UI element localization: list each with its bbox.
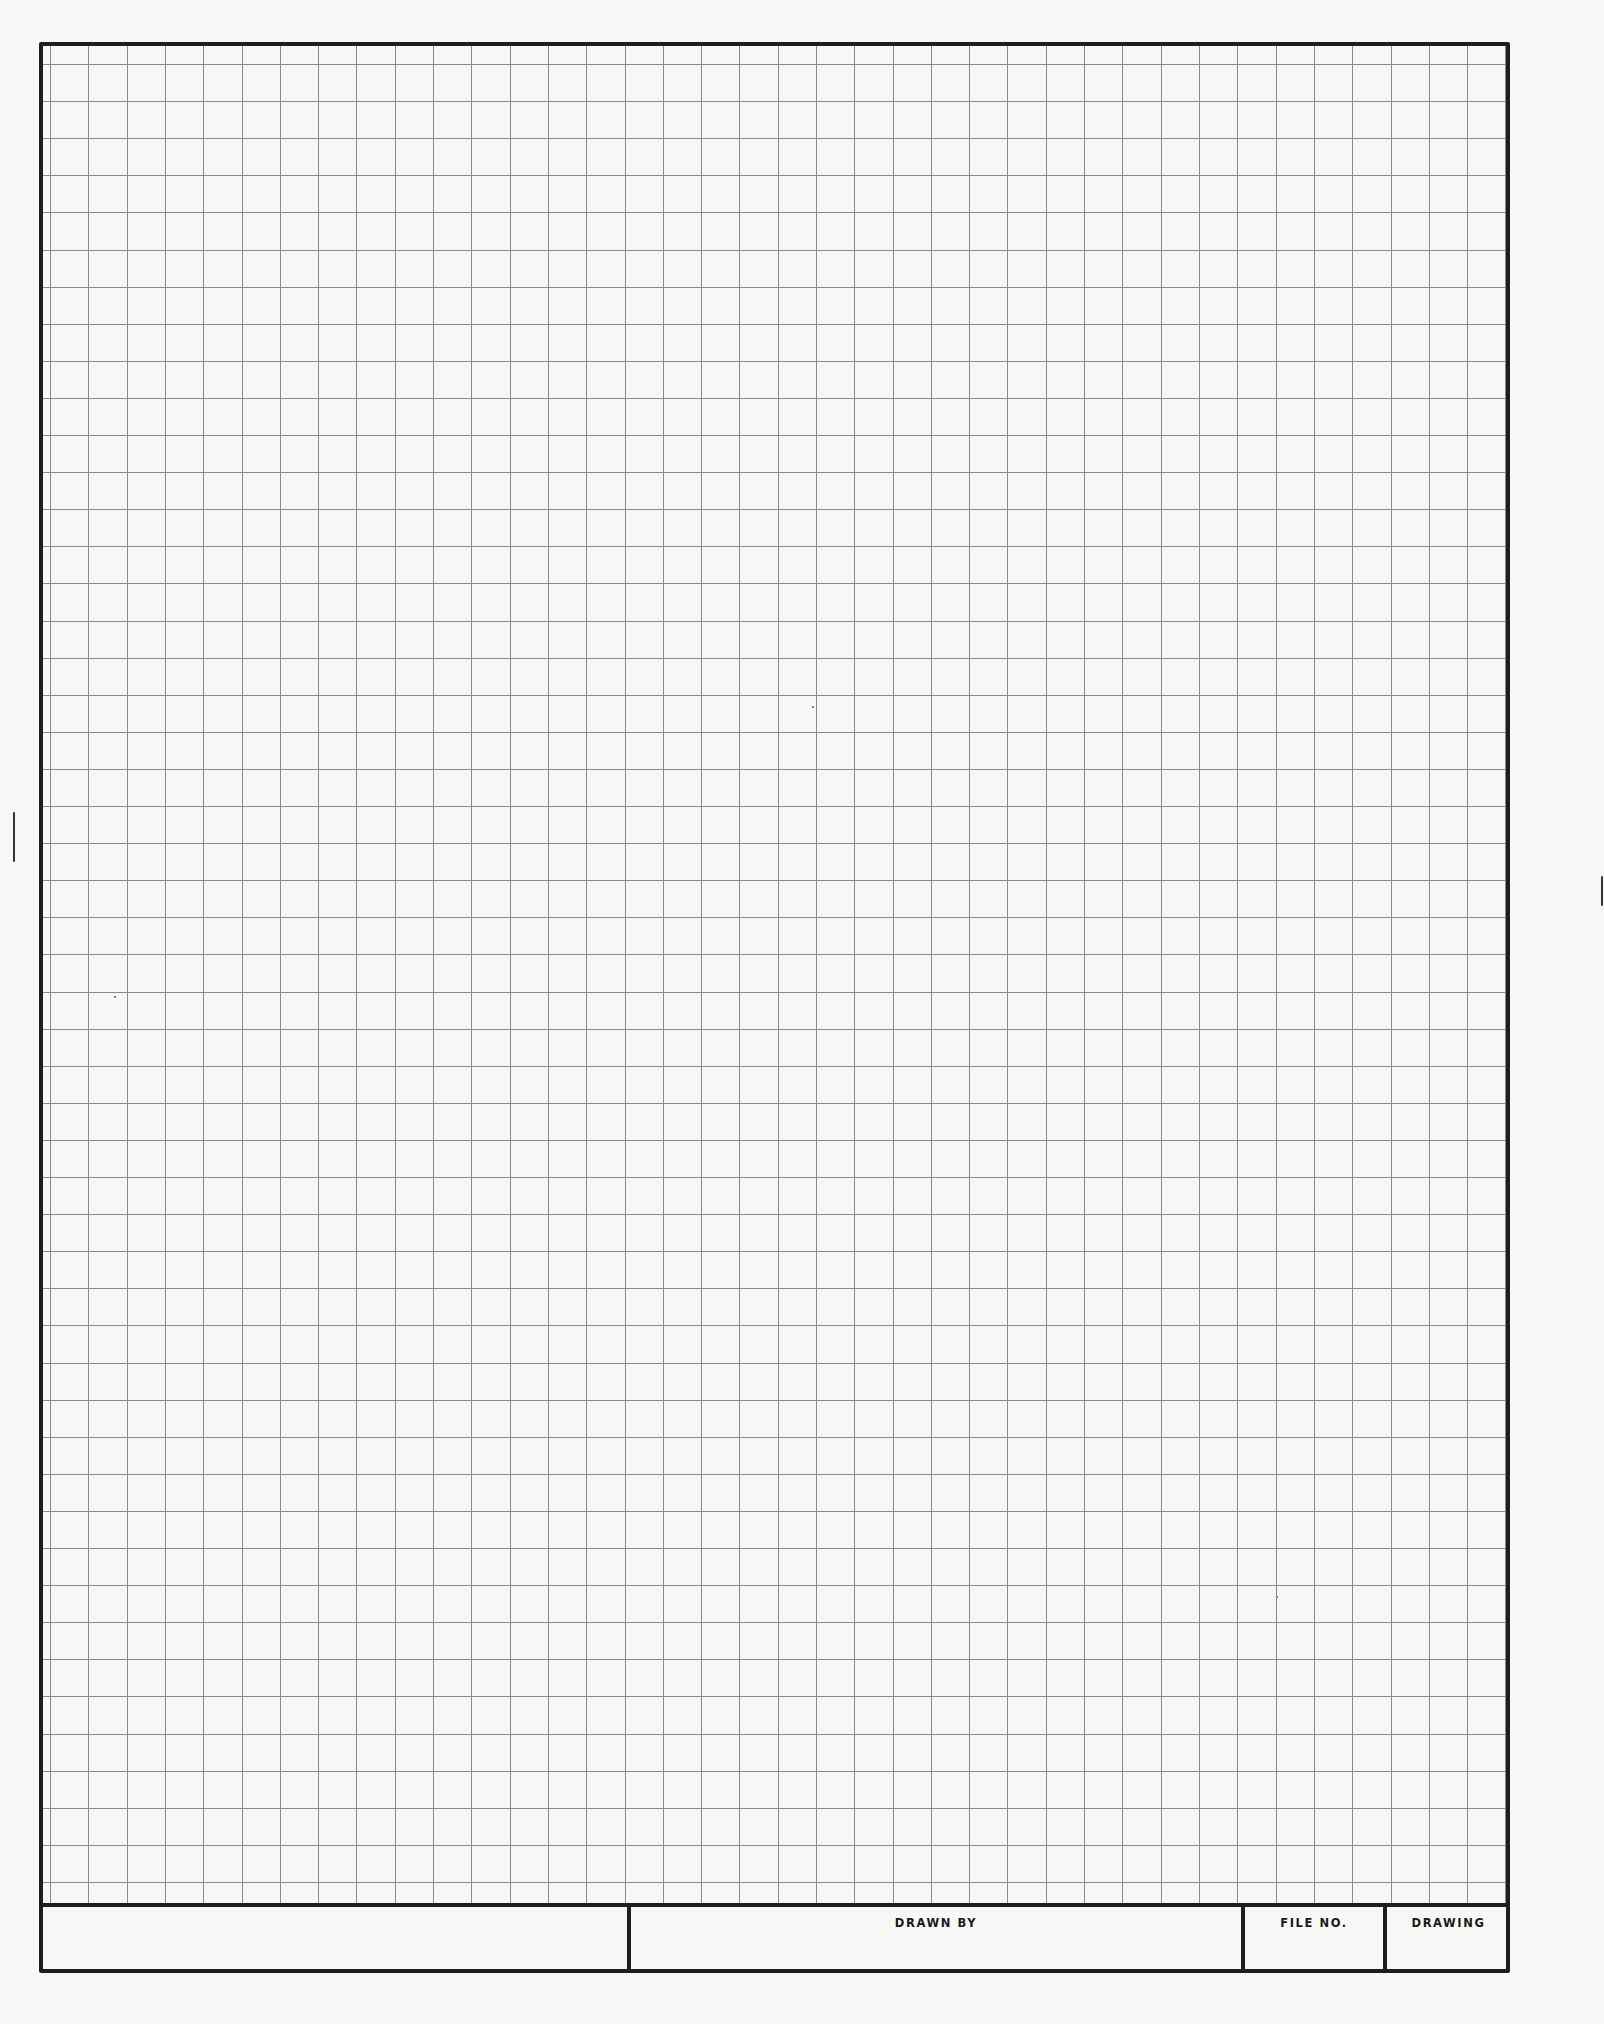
drawing-border (39, 42, 1510, 1973)
title-block-blank-cell[interactable] (39, 1907, 631, 1973)
drawing-number-label: DRAWING (1387, 1916, 1510, 1930)
title-block: DRAWN BY FILE NO. DRAWING (39, 1903, 1510, 1973)
graph-paper-sheet: DRAWN BY FILE NO. DRAWING (0, 0, 1604, 2024)
drawing-number-field[interactable]: DRAWING (1387, 1907, 1510, 1973)
drawn-by-field[interactable]: DRAWN BY (631, 1907, 1245, 1973)
file-number-label: FILE NO. (1245, 1916, 1383, 1930)
registration-mark-right (1601, 876, 1603, 906)
registration-mark-left (13, 812, 15, 862)
drawn-by-label: DRAWN BY (631, 1916, 1241, 1930)
file-number-field[interactable]: FILE NO. (1245, 1907, 1387, 1973)
